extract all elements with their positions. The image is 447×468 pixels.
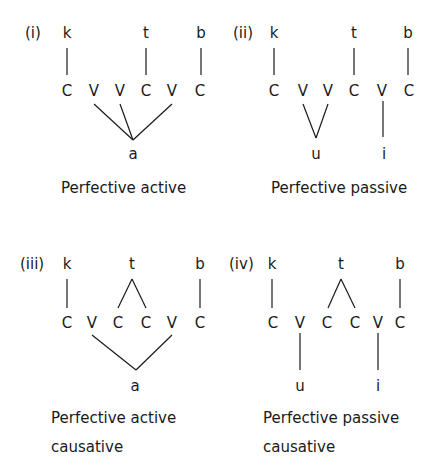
skeleton-slot: V — [89, 84, 99, 99]
skeleton-slot: V — [87, 316, 97, 331]
skeleton-slot: C — [349, 84, 359, 99]
panel-caption: Perfective passive — [263, 411, 399, 426]
root-consonant: k — [268, 257, 277, 272]
skeleton-slot: V — [115, 84, 125, 99]
skeleton-slot: C — [322, 316, 332, 331]
vowel-melody: i — [376, 379, 380, 394]
skeleton-slot: C — [141, 316, 151, 331]
panel-i-lines — [67, 48, 201, 140]
panel-number: (ii) — [233, 26, 253, 41]
root-consonant: b — [195, 257, 205, 272]
root-consonant: k — [270, 26, 279, 41]
skeleton-slot: V — [377, 84, 387, 99]
panel-number: (iii) — [20, 257, 44, 272]
skeleton-slot: C — [268, 316, 278, 331]
panel-caption: Perfective active — [51, 411, 176, 426]
skeleton-slot: C — [195, 316, 205, 331]
skeleton-slot: C — [404, 84, 414, 99]
panel-ii-lines — [274, 48, 408, 138]
skeleton-slot: C — [62, 84, 72, 99]
root-consonant: k — [63, 257, 72, 272]
panel-caption: Perfective active — [61, 181, 186, 196]
skeleton-slot: C — [141, 84, 151, 99]
root-consonant: t — [338, 257, 344, 272]
vowel-melody: a — [130, 379, 139, 394]
skeleton-slot: V — [373, 316, 383, 331]
skeleton-slot: V — [167, 84, 177, 99]
skeleton-slot: C — [113, 316, 123, 331]
panel-caption: causative — [263, 440, 335, 455]
vowel-melody: i — [382, 147, 386, 162]
skeleton-slot: C — [395, 316, 405, 331]
vowel-melody: a — [128, 147, 137, 162]
skeleton-slot: V — [167, 316, 177, 331]
root-consonant: t — [143, 26, 149, 41]
skeleton-slot: V — [295, 316, 305, 331]
panel-number: (iv) — [229, 257, 254, 272]
vowel-melody: u — [295, 379, 305, 394]
root-consonant: b — [196, 26, 206, 41]
vowel-melody: u — [311, 147, 321, 162]
skeleton-slot: C — [62, 316, 72, 331]
skeleton-slot: C — [269, 84, 279, 99]
root-consonant: t — [351, 26, 357, 41]
skeleton-slot: V — [323, 84, 333, 99]
root-consonant: t — [129, 257, 135, 272]
skeleton-slot: V — [298, 84, 308, 99]
panel-number: (i) — [25, 26, 41, 41]
root-consonant: k — [63, 26, 72, 41]
skeleton-slot: C — [350, 316, 360, 331]
root-consonant: b — [403, 26, 413, 41]
panel-caption: Perfective passive — [271, 181, 407, 196]
panel-caption: causative — [51, 440, 123, 455]
root-consonant: b — [395, 257, 405, 272]
skeleton-slot: C — [195, 84, 205, 99]
association-lines — [0, 0, 447, 468]
